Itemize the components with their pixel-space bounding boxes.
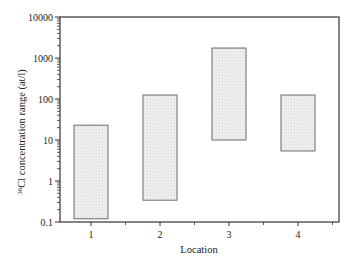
y-axis: 0.1110100100010000 [28,12,60,228]
y-axis-title-text: Cl concentration range (at/l) [16,69,28,188]
y-tick-label: 1 [48,176,53,187]
y-tick-label: 100 [38,94,53,105]
range-box-location-1 [74,125,108,219]
y-tick-label: 10 [43,135,53,146]
x-tick-label: 4 [296,229,301,240]
y-tick-label: 10000 [28,12,53,23]
x-tick-label: 2 [158,229,163,240]
y-axis-title: 36Cl concentration range (at/l) [16,69,28,195]
range-chart: 0.1110100100010000 1234 Location 36Cl co… [0,0,357,267]
y-tick-label: 0.1 [41,217,54,228]
x-tick-label: 1 [89,229,94,240]
y-tick-label: 1000 [33,53,53,64]
x-tick-label: 3 [227,229,232,240]
range-box-location-4 [281,95,315,151]
range-box-location-2 [143,95,177,200]
x-axis-title: Location [180,244,218,255]
range-boxes [74,48,315,219]
x-axis: 1234 [89,222,333,240]
range-box-location-3 [212,48,246,140]
